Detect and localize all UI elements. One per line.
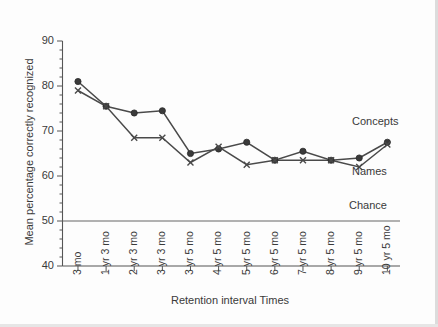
x-tick-label: 1 yr 3 mo <box>99 231 111 275</box>
x-tick-label: 3 yr 5 mo <box>183 231 195 275</box>
x-tick-marks <box>78 266 387 271</box>
concepts-series-label: Concepts <box>352 115 399 127</box>
y-tick-label: 50 <box>42 214 54 226</box>
y-tick-label: 90 <box>42 34 54 46</box>
data-point-marker <box>187 160 193 166</box>
data-point-marker <box>187 150 193 156</box>
data-point-marker <box>75 78 81 84</box>
names-series-label: Names <box>352 165 387 177</box>
y-axis: 405060708090 <box>42 34 63 271</box>
x-tick-label: 3 yr 3 mo <box>155 231 167 275</box>
x-tick-label: 10 yr 5 mo <box>380 225 392 275</box>
x-tick-label: 2 yr 3 mo <box>127 231 139 275</box>
concepts-line <box>78 82 387 161</box>
x-tick-label: 4 yr 5 mo <box>211 231 223 275</box>
names-markers <box>75 88 390 171</box>
figure-page: 405060708090 3 mo1 yr 3 mo2 yr 3 mo3 yr … <box>0 0 438 327</box>
y-axis-title: Mean percentage correctly recognized <box>23 58 35 245</box>
data-point-marker <box>300 148 306 154</box>
y-tick-label: 80 <box>42 79 54 91</box>
chance-reference: Chance <box>63 199 401 221</box>
x-tick-labels: 3 mo1 yr 3 mo2 yr 3 mo3 yr 3 mo3 yr 5 mo… <box>71 225 392 275</box>
x-axis-title: Retention interval Times <box>171 294 289 306</box>
y-tick-label: 40 <box>42 259 54 271</box>
data-point-marker <box>75 88 81 94</box>
x-tick-label: 7 yr 5 mo <box>296 231 308 275</box>
data-point-marker <box>159 108 165 114</box>
chart-svg: 405060708090 3 mo1 yr 3 mo2 yr 3 mo3 yr … <box>0 0 438 327</box>
chance-label: Chance <box>349 199 387 211</box>
x-tick-label: 6 yr 5 mo <box>268 231 280 275</box>
x-tick-label: 3 mo <box>71 251 83 275</box>
y-tick-label: 70 <box>42 124 54 136</box>
y-tick-marks <box>57 41 63 266</box>
y-tick-label: 60 <box>42 169 54 181</box>
concepts-markers <box>75 78 391 163</box>
line-chart: 405060708090 3 mo1 yr 3 mo2 yr 3 mo3 yr … <box>0 0 438 327</box>
data-point-marker <box>131 110 137 116</box>
names-line <box>78 91 387 168</box>
data-point-marker <box>356 155 362 161</box>
x-tick-label: 8 yr 5 mo <box>324 231 336 275</box>
x-tick-label: 5 yr 5 mo <box>240 231 252 275</box>
x-axis: 3 mo1 yr 3 mo2 yr 3 mo3 yr 3 mo3 yr 5 mo… <box>63 225 401 275</box>
x-tick-label: 9 yr 5 mo <box>352 231 364 275</box>
y-tick-labels: 405060708090 <box>42 34 54 271</box>
data-point-marker <box>244 139 250 145</box>
series-group <box>75 78 391 170</box>
